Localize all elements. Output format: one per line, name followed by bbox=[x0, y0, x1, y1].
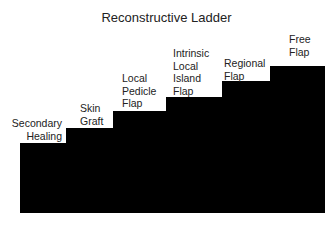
label-secondary-healing: Secondary Healing bbox=[10, 117, 62, 142]
label-free-flap: Free Flap bbox=[289, 33, 311, 58]
label-skin-graft: Skin Graft bbox=[80, 102, 103, 127]
label-local-pedicle-flap: Local Pedicle Flap bbox=[122, 72, 156, 110]
diagram-title: Reconstructive Ladder bbox=[0, 10, 333, 25]
step-free-flap bbox=[270, 66, 325, 213]
label-intrinsic-local-island-flap: Intrinsic Local Island Flap bbox=[173, 47, 209, 97]
label-regional-flap: Regional Flap bbox=[224, 57, 265, 82]
